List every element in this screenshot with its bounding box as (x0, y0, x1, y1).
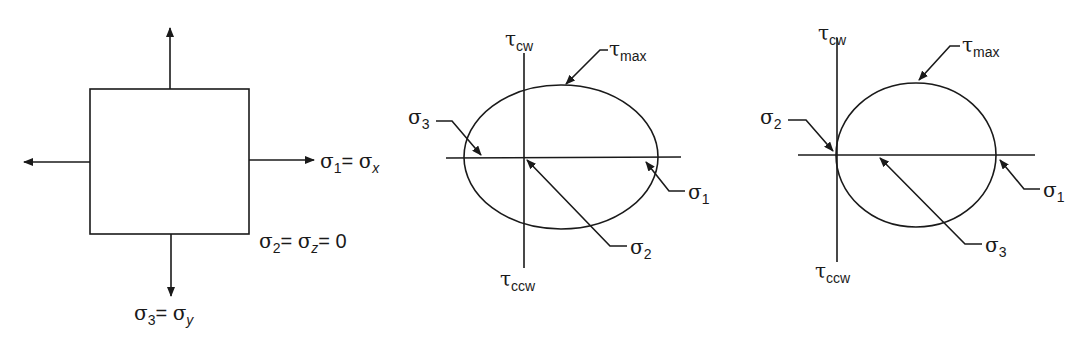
sigma3-callout-label: σ3 (408, 105, 430, 132)
tau-max-label: τmax (609, 37, 647, 64)
stress-element-square (90, 89, 249, 234)
tau-max-leader (566, 50, 608, 84)
sigma1-callout-label: σ1 (1043, 178, 1065, 205)
sigma1-leader (646, 162, 685, 191)
sigma-axis (446, 157, 681, 158)
tau-ccw-label: τccw (815, 259, 851, 286)
tau-ccw-label: τccw (500, 267, 536, 294)
sigma1-leader (1000, 160, 1040, 189)
sigma3-callout-label: σ3 (985, 233, 1007, 260)
tau-cw-label: τcw (818, 21, 847, 48)
stress-element-panel: σ1= σx σ2= σz= 0 σ3= σy (24, 28, 380, 328)
mohr-circle-panel-2: τcw τccw τmax σ2 σ1 σ3 (760, 21, 1065, 286)
sigma2-leader (527, 160, 627, 246)
tau-cw-label: τcw (505, 27, 534, 54)
sigma1-callout-label: σ1 (688, 180, 710, 207)
sigma1-label: σ1= σx (320, 149, 380, 176)
sigma2-label: σ2= σz= 0 (259, 229, 347, 256)
sigma2-callout-label: σ2 (760, 105, 782, 132)
sigma2-callout-label: σ2 (630, 235, 652, 262)
sigma3-label: σ3= σy (134, 301, 194, 328)
sigma2-leader (788, 120, 833, 151)
tau-max-leader (919, 46, 960, 80)
tau-max-label: τmax (962, 33, 1000, 60)
mohr-circle-figure: σ1= σx σ2= σz= 0 σ3= σy τcw τccw τmax σ3 (0, 0, 1087, 341)
mohr-circle-panel-1: τcw τccw τmax σ3 σ1 σ2 (408, 27, 710, 294)
sigma3-leader (880, 158, 982, 244)
